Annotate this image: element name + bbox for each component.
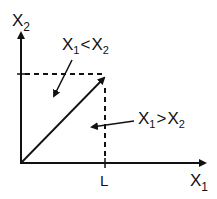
diagram-canvas: X2 X1 L X1<X2 X1>X2	[0, 0, 217, 199]
diagonal-line	[21, 78, 104, 163]
region-label-lower: X1>X2	[138, 109, 185, 130]
x-axis-label: X1	[190, 171, 208, 194]
arrow-upper-region	[54, 60, 72, 96]
tick-label-L: L	[100, 172, 108, 189]
arrow-lower-region	[92, 121, 134, 127]
y-axis-label: X2	[12, 11, 30, 34]
region-label-upper: X1<X2	[62, 35, 109, 56]
